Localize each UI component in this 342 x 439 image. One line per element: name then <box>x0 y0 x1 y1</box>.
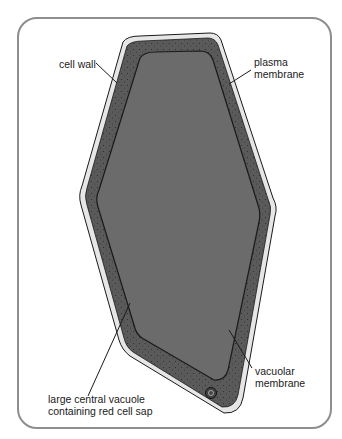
label-cell-wall: cell wall <box>59 58 96 70</box>
label-central-vacuole-line1: large central vacuole <box>48 393 152 405</box>
label-central-vacuole: large central vacuole containing red cel… <box>48 393 152 417</box>
label-central-vacuole-line2: containing red cell sap <box>48 405 152 417</box>
label-vacuolar-membrane: vacuolar membrane <box>255 365 305 389</box>
label-vacuolar-membrane-line1: vacuolar <box>255 365 305 377</box>
label-plasma-membrane-line1: plasma <box>254 56 304 68</box>
label-plasma-membrane-line2: membrane <box>254 68 304 80</box>
label-vacuolar-membrane-line2: membrane <box>255 377 305 389</box>
label-plasma-membrane: plasma membrane <box>254 56 304 80</box>
nucleus-icon <box>206 388 217 399</box>
